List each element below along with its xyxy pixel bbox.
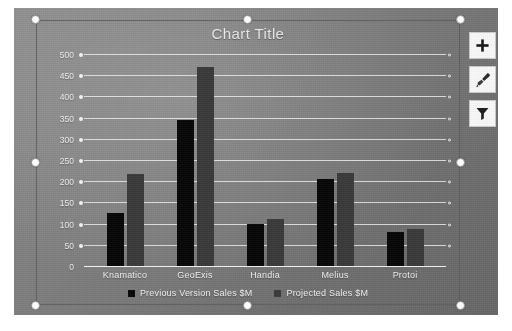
resize-handle-middle-right[interactable]: [456, 158, 465, 167]
legend-item[interactable]: Projected Sales $M: [274, 288, 368, 298]
y-axis-tick-label: 500: [60, 50, 74, 60]
bar[interactable]: [127, 174, 144, 266]
bar[interactable]: [267, 219, 284, 266]
bar[interactable]: [107, 213, 124, 266]
gridline-end-marker: [448, 117, 451, 120]
y-axis-tick-label: 50: [65, 241, 74, 251]
y-axis-tick-mark: [79, 95, 83, 99]
funnel-icon: [475, 106, 490, 121]
resize-handle-top-right[interactable]: [456, 15, 465, 24]
resize-handle-middle-left[interactable]: [31, 158, 40, 167]
y-axis-tick-label: 150: [60, 198, 74, 208]
category-label: Knamatico: [90, 270, 160, 280]
gridline-end-marker: [448, 160, 451, 163]
paintbrush-icon: [475, 72, 491, 88]
category-axis[interactable]: KnamaticoGeoExisHandiaMeliusProtoi: [84, 270, 446, 280]
bar[interactable]: [337, 173, 354, 266]
bar[interactable]: [247, 224, 264, 266]
resize-handle-bottom-right[interactable]: [456, 301, 465, 310]
chart-styles-button[interactable]: [469, 66, 496, 93]
gridline-end-marker: [448, 181, 451, 184]
gridline-end-marker: [448, 96, 451, 99]
chart-filters-button[interactable]: [469, 100, 496, 127]
plus-icon: [475, 38, 490, 53]
y-axis-tick-mark: [79, 159, 83, 163]
y-axis-tick-mark: [79, 223, 83, 227]
gridline: 0: [84, 266, 446, 267]
legend-swatch: [274, 290, 281, 297]
legend-label: Previous Version Sales $M: [140, 288, 253, 298]
legend-item[interactable]: Previous Version Sales $M: [128, 288, 253, 298]
legend-label: Projected Sales $M: [286, 288, 368, 298]
y-axis-tick-label: 250: [60, 156, 74, 166]
bar[interactable]: [317, 179, 334, 266]
bar-group: [160, 54, 230, 266]
bar[interactable]: [407, 229, 424, 266]
bar[interactable]: [387, 232, 404, 266]
category-label: Melius: [300, 270, 370, 280]
resize-handle-bottom-left[interactable]: [31, 301, 40, 310]
chart-legend[interactable]: Previous Version Sales $MProjected Sales…: [36, 288, 460, 298]
bar-group: [300, 54, 370, 266]
y-axis-tick-mark: [79, 74, 83, 78]
y-axis-tick-mark: [79, 138, 83, 142]
bar[interactable]: [197, 67, 214, 266]
gridline-end-marker: [448, 244, 451, 247]
category-label: Protoi: [370, 270, 440, 280]
bar-group: [230, 54, 300, 266]
y-axis-tick-label: 450: [60, 71, 74, 81]
resize-handle-bottom-center[interactable]: [243, 301, 252, 310]
y-axis-tick-label: 300: [60, 135, 74, 145]
y-axis-tick-label: 200: [60, 177, 74, 187]
gridline-end-marker: [448, 138, 451, 141]
y-axis-tick-mark: [79, 117, 83, 121]
category-label: GeoExis: [160, 270, 230, 280]
gridline-end-marker: [448, 54, 451, 57]
y-axis-tick-label: 350: [60, 114, 74, 124]
y-axis-tick-label: 400: [60, 92, 74, 102]
y-axis-tick-mark: [79, 53, 83, 57]
category-label: Handia: [230, 270, 300, 280]
bar[interactable]: [177, 120, 194, 266]
resize-handle-top-left[interactable]: [31, 15, 40, 24]
resize-handle-top-center[interactable]: [243, 15, 252, 24]
chart-quick-buttons: [469, 32, 497, 127]
y-axis-tick-label: 100: [60, 220, 74, 230]
bar-group: [90, 54, 160, 266]
gridline-end-marker: [448, 75, 451, 78]
y-axis-tick-label: 0: [69, 262, 74, 272]
bars-layer: [84, 54, 446, 266]
gridline-end-marker: [448, 223, 451, 226]
y-axis-tick-mark: [79, 201, 83, 205]
chart-title[interactable]: Chart Title: [36, 25, 460, 42]
gridline-end-marker: [448, 202, 451, 205]
chart-object[interactable]: Chart Title 0501001502002503003504004505…: [36, 20, 460, 305]
legend-swatch: [128, 290, 135, 297]
plot-area[interactable]: 050100150200250300350400450500: [84, 54, 446, 266]
bar-group: [370, 54, 440, 266]
y-axis-tick-mark: [79, 180, 83, 184]
chart-elements-button[interactable]: [469, 32, 496, 59]
slide-canvas[interactable]: Chart Title 0501001502002503003504004505…: [14, 8, 498, 315]
y-axis-tick-mark: [79, 244, 83, 248]
